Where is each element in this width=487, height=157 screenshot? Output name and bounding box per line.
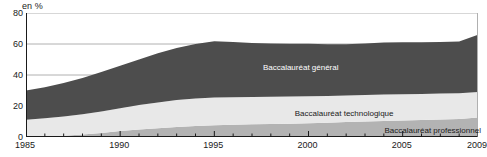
x-tick-label-1990: 1990 [109, 141, 129, 150]
area-series-group [26, 35, 478, 137]
series-label-professionnel: Baccalauréat professionnel [384, 126, 481, 135]
y-tick-label-80: 80 [13, 9, 23, 18]
y-axis-unit-label: en % [22, 1, 43, 11]
x-tick-label-2005: 2005 [392, 141, 412, 150]
y-tick-label-60: 60 [13, 40, 23, 49]
x-tick-label-2009: 2009 [467, 141, 487, 150]
plot-area: Baccalauréat général Baccalauréat techno… [26, 13, 478, 137]
series-label-general: Baccalauréat général [263, 63, 339, 72]
y-axis-tick-labels: 020406080 [0, 0, 23, 157]
x-tick-label-1985: 1985 [15, 141, 35, 150]
series-label-technologique: Baccalauréat technologique [295, 109, 394, 118]
x-tick-label-2000: 2000 [298, 141, 318, 150]
plot-svg [26, 13, 478, 137]
x-tick-label-1995: 1995 [203, 141, 223, 150]
y-tick-label-20: 20 [13, 102, 23, 111]
y-tick-label-40: 40 [13, 71, 23, 80]
